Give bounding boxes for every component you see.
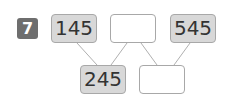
top-box-1: 145	[51, 14, 97, 43]
top-box-2-answer[interactable]	[110, 14, 156, 43]
top-box-3: 545	[170, 14, 216, 43]
problem-number-badge: 7	[17, 18, 38, 39]
bottom-box-2-answer[interactable]	[139, 65, 185, 94]
bottom-box-1: 245	[80, 65, 126, 94]
